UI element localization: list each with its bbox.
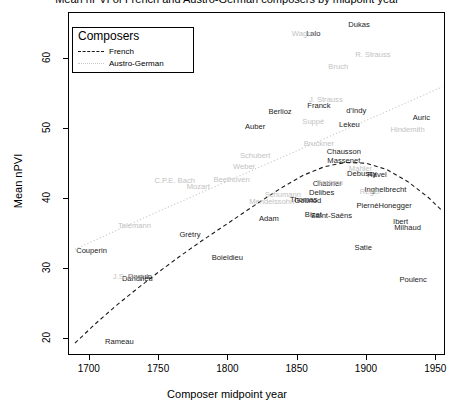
x-tick-mark [158,355,159,360]
x-tick-mark [435,355,436,360]
y-tick-label: 40 [41,182,52,212]
x-tick-mark [89,355,90,360]
x-axis-label: Composer midpoint year [0,388,454,400]
data-point-label: Reger [360,188,381,196]
x-tick-mark [227,355,228,360]
data-point-label: Schumann [265,191,301,199]
legend-key-french [78,51,104,52]
legend-title: Composers [78,29,139,43]
data-point-label: Schubert [240,152,270,160]
legend-key-austro-german [78,63,104,64]
data-point-label: Hindemith [390,127,424,135]
x-tick-mark [297,355,298,360]
y-tick-label: 30 [41,252,52,282]
data-point-label: Suppé [302,118,324,126]
data-point-label: Auber [245,123,265,131]
x-tick-label: 1850 [277,363,317,374]
data-point-label: Chausson [327,148,361,156]
data-point-label: Mahler [349,165,372,173]
data-point-label: Pierné [356,202,378,210]
data-point-label: Adam [259,215,279,223]
data-point-label: Grétry [179,231,200,239]
x-tick-label: 1900 [346,363,386,374]
data-point-label: Rameau [105,338,134,346]
data-point-label: Boieldieu [212,255,243,263]
data-point-label: Berlioz [268,108,291,116]
data-point-label: d'Indy [346,107,366,115]
data-point-label: Mozart [187,183,210,191]
data-point-label: Lekeu [339,121,360,129]
legend: Composers FrenchAustro-German [72,27,194,73]
legend-label: French [109,47,134,56]
data-point-label: Telemann [118,222,151,230]
x-tick-label: 1800 [207,363,247,374]
data-point-label: J.S. Bach [113,273,146,281]
data-point-label: Poulenc [399,276,426,284]
y-tick-label: 20 [41,322,52,352]
x-tick-mark [366,355,367,360]
data-point-label: J. Strauss [309,96,343,104]
y-tick-label: 50 [41,112,52,142]
chart-title: Mean nPVI of French and Austro-German co… [0,0,454,5]
data-point-label: Delibes [309,190,334,198]
y-axis-label: Mean nPVI [12,111,24,251]
data-point-label: Auric [413,115,430,123]
data-point-label: Mendelssohn [249,199,294,207]
x-tick-label: 1700 [69,363,109,374]
data-point-label: Milhaud [394,224,421,232]
data-point-label: Bruch [328,63,348,71]
data-point-label: Wagner [292,31,318,39]
data-point-label: Honegger [378,202,411,210]
data-point-label: Dukas [348,21,370,29]
data-point-label: Beethoven [213,176,249,184]
chart-canvas: Mean nPVI of French and Austro-German co… [0,0,454,411]
data-point-label: Weber [233,164,255,172]
data-point-label: Saint-Saëns [311,212,352,220]
data-point-label: Brahms [317,179,343,187]
x-tick-label: 1750 [138,363,178,374]
data-point-label: R. Strauss [355,51,390,59]
data-point-label: Satie [355,244,372,252]
data-point-label: Bruckner [304,140,334,148]
data-point-label: Couperin [76,248,107,256]
y-tick-label: 60 [41,42,52,72]
x-tick-label: 1950 [415,363,454,374]
legend-label: Austro-German [109,59,164,68]
